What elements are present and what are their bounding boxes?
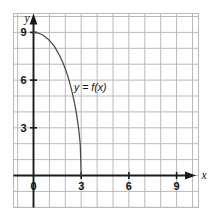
y-tick-label: 3 [20,122,26,134]
y-tick-label: 9 [20,26,26,38]
x-tick-label: 3 [78,180,84,192]
x-axis-label: x [200,169,207,181]
x-tick-label: 6 [126,180,132,192]
y-axis-label: y [23,12,30,25]
function-graph: 369 0369 y x y = f(x) [0,0,211,221]
x-tick-label: 0 [30,180,36,192]
graph-screenshot: 369 0369 y x y = f(x) [0,0,211,221]
y-tick-label: 6 [20,74,26,86]
curve-label: y = f(x) [73,81,106,93]
x-tick-label: 9 [174,180,180,192]
